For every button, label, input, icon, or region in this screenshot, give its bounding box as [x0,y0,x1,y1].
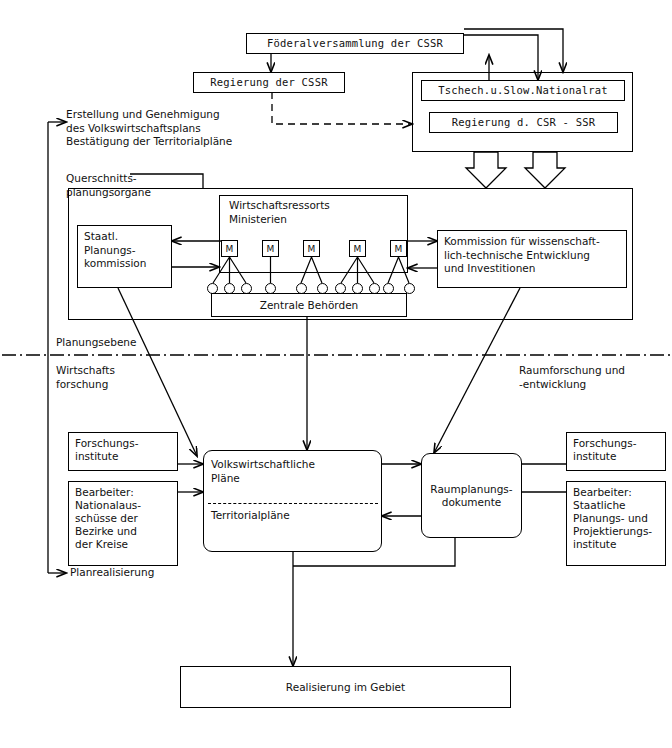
economic-research-label: Wirtschafts forschung [56,364,216,391]
national-plans-top-label: Volkswirtschaftliche Pläne [211,458,381,485]
diagram-canvas: Föderalversammlung der CSSR Regierung de… [0,0,672,748]
right-research-institutes-box[interactable]: Forschungs- institute [566,432,666,471]
planning-level-divider-label: Planungsebene [56,336,136,348]
spatial-research-label: Raumforschung und -entwicklung [519,364,672,391]
federal-government-box[interactable]: Regierung der CSSR [193,72,345,93]
ministry-box-5[interactable]: M [390,240,407,257]
republic-governments-label: Regierung d. CSR - SSR [452,116,595,129]
ministry-label: M [395,244,403,254]
federal-assembly-box[interactable]: Föderalversammlung der CSSR [246,33,464,54]
ministry-label: M [354,244,362,254]
territorial-plans-label: Territorialpläne [211,509,381,523]
ministry-box-1[interactable]: M [221,240,238,257]
federal-assembly-label: Föderalversammlung der CSSR [267,37,443,50]
republic-governments-box[interactable]: Regierung d. CSR - SSR [429,112,618,133]
ministry-label: M [308,244,316,254]
national-plans-separator [208,503,378,504]
left-research-institutes-box[interactable]: Forschungs- institute [68,432,178,471]
science-commission-box[interactable]: Kommission für wissenschaft- lich-techni… [437,230,627,288]
realisation-box[interactable]: Realisierung im Gebiet [180,666,511,708]
state-planning-commission-box[interactable]: Staatl. Planungs- kommission [77,225,172,288]
plan-creation-annotation: Erstellung und Genehmigung des Volkswirt… [66,108,316,149]
right-editors-box[interactable]: Bearbeiter: Staatliche Planungs- und Pro… [566,481,666,566]
ministry-box-2[interactable]: M [262,240,279,257]
spatial-planning-documents-box[interactable]: Raumplanungs- dokumente [421,453,522,538]
federal-government-label: Regierung der CSSR [210,76,327,89]
ministry-box-3[interactable]: M [303,240,320,257]
ministry-label: M [267,244,275,254]
ministry-label: M [226,244,234,254]
central-authorities-box[interactable]: Zentrale Behörden [211,293,407,317]
plan-realisation-label: Planrealisierung [70,566,240,580]
national-council-box[interactable]: Tschech.u.Slow.Nationalrat [421,80,625,101]
national-council-label: Tschech.u.Slow.Nationalrat [438,84,608,97]
ministry-box-4[interactable]: M [349,240,366,257]
economic-departments-label: Wirtschaftsressorts Ministerien [229,199,404,226]
left-editors-box[interactable]: Bearbeiter: Nationalaus- schüsse der Bez… [68,481,178,566]
